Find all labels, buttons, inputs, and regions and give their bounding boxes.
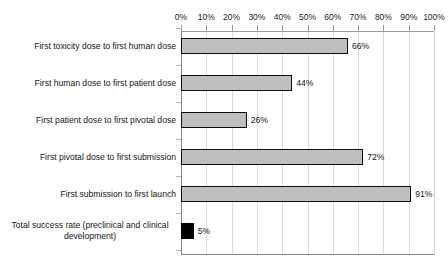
y-axis-tick bbox=[176, 250, 181, 251]
category-label: First submission to first launch bbox=[4, 189, 176, 200]
x-axis-label: 50% bbox=[299, 12, 316, 22]
x-axis-label: 80% bbox=[375, 12, 392, 22]
y-axis-tick bbox=[176, 28, 181, 29]
y-axis-tick bbox=[176, 139, 181, 140]
bar-value-label: 44% bbox=[296, 78, 313, 88]
category-label: First toxicity dose to first human dose bbox=[4, 41, 176, 52]
plot-right-border bbox=[434, 32, 435, 255]
bar-value-label: 91% bbox=[415, 189, 432, 199]
x-axis-label: 0% bbox=[175, 12, 187, 22]
x-axis-tick bbox=[232, 25, 233, 31]
x-axis-tick bbox=[308, 25, 309, 31]
y-axis-tick bbox=[176, 102, 181, 103]
y-axis-tick bbox=[176, 176, 181, 177]
bar bbox=[181, 112, 247, 128]
bar bbox=[181, 223, 194, 239]
y-axis-tick bbox=[176, 213, 181, 214]
bar-value-label: 66% bbox=[352, 41, 369, 51]
x-axis-line bbox=[181, 31, 434, 32]
bar bbox=[181, 149, 363, 165]
x-axis-tick bbox=[206, 25, 207, 31]
category-label: First human dose to first patient dose bbox=[4, 78, 176, 89]
bar bbox=[181, 75, 292, 91]
x-axis-tick bbox=[257, 25, 258, 31]
bar-value-label: 5% bbox=[198, 226, 210, 236]
x-axis-tick bbox=[181, 25, 182, 31]
x-axis-label: 90% bbox=[400, 12, 417, 22]
category-label: First pivotal dose to first submission bbox=[4, 152, 176, 163]
x-axis-label: 70% bbox=[350, 12, 367, 22]
x-axis-label: 60% bbox=[324, 12, 341, 22]
bar-chart: 0%10%20%30%40%50%60%70%80%90%100% First … bbox=[0, 0, 448, 266]
bar bbox=[181, 38, 348, 54]
plot-area bbox=[181, 32, 434, 255]
x-axis-tick bbox=[409, 25, 410, 31]
category-label: First patient dose to first pivotal dose bbox=[4, 115, 176, 126]
category-label: Total success rate (preclinical and clin… bbox=[4, 220, 176, 242]
y-axis-tick bbox=[176, 65, 181, 66]
x-axis-tick bbox=[282, 25, 283, 31]
x-axis-tick bbox=[434, 25, 435, 31]
bar-value-label: 72% bbox=[367, 152, 384, 162]
bar-value-label: 26% bbox=[251, 115, 268, 125]
bar bbox=[181, 186, 411, 202]
x-axis-label: 30% bbox=[248, 12, 265, 22]
x-axis-label: 40% bbox=[274, 12, 291, 22]
x-axis-label: 10% bbox=[198, 12, 215, 22]
x-axis-label: 100% bbox=[423, 12, 445, 22]
x-axis-tick bbox=[333, 25, 334, 31]
x-axis-label: 20% bbox=[223, 12, 240, 22]
x-axis-tick bbox=[383, 25, 384, 31]
x-axis-tick bbox=[358, 25, 359, 31]
